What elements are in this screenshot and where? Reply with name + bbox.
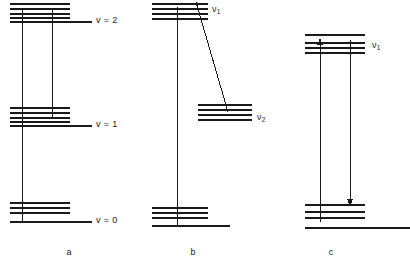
panel-b-nu1-label: ν1	[212, 4, 220, 14]
panel-c-nu1-symbol: ν	[372, 40, 377, 50]
panel-c-transition-emission-down	[347, 40, 353, 207]
panel-a-v2-manifold	[10, 4, 70, 18]
panel-c-nu1-manifold	[305, 43, 365, 53]
panel-b-nu2-subscript: 2	[262, 116, 266, 123]
panel-b-nu2-manifold	[198, 105, 252, 120]
panel-b	[152, 2, 252, 226]
panel-b-ground-manifold	[152, 208, 208, 218]
diagram-canvas	[0, 0, 410, 268]
panel-b-nu2-label: ν2	[257, 112, 265, 122]
panel-c-nu1-label: ν1	[372, 40, 380, 50]
energy-level-diagram: v = 2 v = 1 v = 0 ν1 ν2 ν1 a b c	[0, 0, 410, 268]
panel-b-nu1-manifold	[152, 4, 208, 19]
panel-b-nu2-symbol: ν	[257, 112, 262, 122]
panel-c	[305, 35, 410, 228]
panel-a-v0-manifold	[10, 203, 70, 213]
panel-b-nu1-symbol: ν	[212, 4, 217, 14]
panel-b-nu1-subscript: 1	[217, 8, 221, 15]
panel-c-transition-absorption-up	[317, 38, 323, 222]
panel-letter-c: c	[324, 247, 338, 257]
panel-b-transition-nu1-to-nu2	[196, 2, 228, 112]
panel-a-level-label-v2: v = 2	[96, 15, 118, 25]
panel-c-nu1-subscript: 1	[377, 44, 381, 51]
panel-a-level-label-v0: v = 0	[96, 215, 118, 225]
panel-letter-b: b	[186, 247, 200, 257]
panel-a-v1-manifold	[10, 108, 70, 122]
panel-letter-a: a	[62, 247, 76, 257]
panel-a-level-label-v1: v = 1	[96, 119, 118, 129]
panel-a	[10, 4, 92, 222]
panel-c-ground-manifold	[305, 205, 365, 218]
